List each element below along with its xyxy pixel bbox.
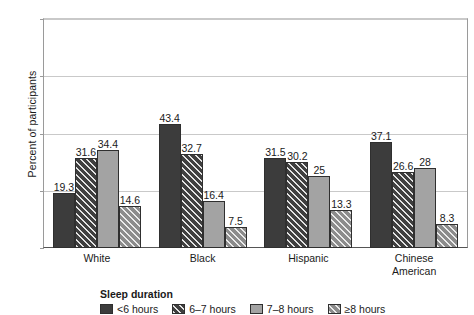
y-tick-mark xyxy=(40,248,44,249)
x-axis-label-line: Black xyxy=(150,252,256,265)
bar: 31.6 xyxy=(75,158,97,248)
bar-value-label: 14.6 xyxy=(120,195,140,206)
x-axis-label-line: Chinese xyxy=(361,252,467,265)
x-axis-label: Black xyxy=(150,252,256,277)
bar-value-label: 16.4 xyxy=(203,190,223,201)
legend-swatch-icon xyxy=(250,304,263,314)
x-axis-label-line: White xyxy=(44,252,150,265)
bar-value-label: 31.5 xyxy=(265,147,285,158)
legend-item[interactable]: 6–7 hours xyxy=(172,303,236,315)
x-axis-label: Hispanic xyxy=(256,252,362,277)
bar-value-label: 28 xyxy=(419,157,431,168)
bar: 16.4 xyxy=(203,201,225,248)
bar: 14.6 xyxy=(119,206,141,248)
bar: 30.2 xyxy=(286,162,308,248)
bar: 37.1 xyxy=(370,142,392,248)
bar-group: 31.530.22513.3 xyxy=(256,19,362,248)
bar: 25 xyxy=(308,176,330,248)
bar-value-label: 30.2 xyxy=(287,151,307,162)
x-axis-label-line: Hispanic xyxy=(256,252,362,265)
bar-value-label: 13.3 xyxy=(331,199,351,210)
legend-swatch-icon xyxy=(328,304,341,314)
legend-item[interactable]: <6 hours xyxy=(100,303,158,315)
x-axis-label: ChineseAmerican xyxy=(361,252,467,277)
legend-swatch-icon xyxy=(100,304,113,314)
bar: 7.5 xyxy=(225,227,247,248)
legend-item[interactable]: 7–8 hours xyxy=(250,303,314,315)
bar-group: 37.126.6288.3 xyxy=(361,19,467,248)
bar-value-label: 8.3 xyxy=(440,213,455,224)
bar-value-label: 34.4 xyxy=(98,139,118,150)
bar-value-label: 25 xyxy=(314,165,326,176)
bar-group: 43.432.716.47.5 xyxy=(150,19,256,248)
bar: 32.7 xyxy=(181,154,203,248)
x-axis-labels: WhiteBlackHispanicChineseAmerican xyxy=(44,252,467,277)
legend-items: <6 hours6–7 hours7–8 hours≥8 hours xyxy=(100,303,399,315)
legend-item-label: 7–8 hours xyxy=(267,303,314,315)
bar: 13.3 xyxy=(330,210,352,248)
legend-swatch-icon xyxy=(172,304,185,314)
bar: 43.4 xyxy=(159,124,181,248)
bar: 19.3 xyxy=(53,193,75,248)
bar-value-label: 31.6 xyxy=(76,147,96,158)
y-axis-title: Percent of participants xyxy=(26,39,38,209)
bar: 8.3 xyxy=(436,224,458,248)
bar: 28 xyxy=(414,168,436,248)
bar-value-label: 37.1 xyxy=(371,131,391,142)
bar-value-label: 43.4 xyxy=(159,113,179,124)
bar-groups: 19.331.634.414.643.432.716.47.531.530.22… xyxy=(44,19,467,248)
bar-value-label: 19.3 xyxy=(54,182,74,193)
bar: 34.4 xyxy=(97,150,119,248)
bar-group: 19.331.634.414.6 xyxy=(44,19,150,248)
legend: Sleep duration <6 hours6–7 hours7–8 hour… xyxy=(100,288,399,315)
x-axis-label-line: American xyxy=(361,265,467,278)
bar-value-label: 7.5 xyxy=(228,216,243,227)
bar: 31.5 xyxy=(264,158,286,248)
legend-item[interactable]: ≥8 hours xyxy=(328,303,386,315)
grouped-bar-chart: Percent of participants 020406080 19.331… xyxy=(0,0,474,315)
legend-item-label: <6 hours xyxy=(117,303,158,315)
bar-value-label: 26.6 xyxy=(393,161,413,172)
legend-title: Sleep duration xyxy=(100,288,399,300)
legend-item-label: ≥8 hours xyxy=(345,303,386,315)
bar: 26.6 xyxy=(392,172,414,248)
legend-item-label: 6–7 hours xyxy=(189,303,236,315)
bar-value-label: 32.7 xyxy=(181,143,201,154)
x-axis-label: White xyxy=(44,252,150,277)
